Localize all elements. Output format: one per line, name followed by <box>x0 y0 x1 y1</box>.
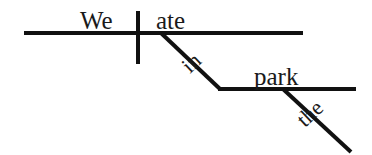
label-subject-we: We <box>80 7 113 34</box>
label-object-park: park <box>254 63 299 90</box>
label-verb-ate: ate <box>156 7 185 34</box>
sentence-diagram-canvas: We ate in park the <box>0 0 372 155</box>
diagram-background <box>0 0 372 155</box>
sentence-diagram-svg: We ate in park the <box>0 0 372 155</box>
